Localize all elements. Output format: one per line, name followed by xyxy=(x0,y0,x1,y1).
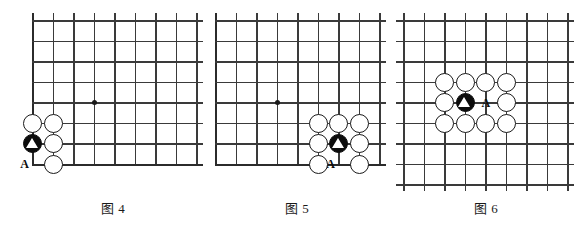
caption-prefix: 图 xyxy=(474,201,487,216)
white-stone[interactable] xyxy=(23,114,42,133)
grid-line-horizontal xyxy=(215,61,386,63)
go-diagram-sheet: A图 4A图 5A图 6 xyxy=(0,0,587,229)
grid-line-horizontal xyxy=(396,143,574,145)
white-stone[interactable] xyxy=(456,114,475,133)
grid-line-vertical xyxy=(215,13,217,164)
white-stone[interactable] xyxy=(497,73,516,92)
grid-line-vertical xyxy=(114,13,116,164)
white-stone[interactable] xyxy=(44,114,63,133)
grid-line-vertical xyxy=(155,13,157,164)
caption-number: 6 xyxy=(491,201,498,216)
grid-line-horizontal xyxy=(215,20,386,22)
grid-line-vertical xyxy=(135,13,137,164)
white-stone[interactable] xyxy=(497,114,516,133)
grid-line-vertical xyxy=(73,13,75,164)
diagram-caption: 图 6 xyxy=(436,198,536,217)
go-board[interactable]: A xyxy=(403,20,567,184)
grid-line-horizontal xyxy=(32,41,203,43)
white-stone[interactable] xyxy=(456,73,475,92)
star-point xyxy=(275,100,280,105)
grid-line-horizontal xyxy=(215,82,386,84)
grid-line-vertical xyxy=(236,13,238,164)
white-stone[interactable] xyxy=(350,155,369,174)
white-stone[interactable] xyxy=(497,93,516,112)
grid-line-vertical xyxy=(196,13,198,164)
diagram-caption: 图 5 xyxy=(247,198,347,217)
go-diagram-5: A xyxy=(201,0,393,229)
caption-prefix: 图 xyxy=(101,201,114,216)
caption-number: 4 xyxy=(118,201,125,216)
white-stone[interactable] xyxy=(309,114,328,133)
grid-line-horizontal xyxy=(32,20,203,22)
grid-line-horizontal xyxy=(32,82,203,84)
white-stone[interactable] xyxy=(350,134,369,153)
white-stone[interactable] xyxy=(329,114,348,133)
white-stone[interactable] xyxy=(309,134,328,153)
white-stone[interactable] xyxy=(476,114,495,133)
grid-line-horizontal xyxy=(396,164,574,166)
black-stone[interactable] xyxy=(456,93,475,112)
diagram-caption: 图 4 xyxy=(63,198,163,217)
grid-line-vertical xyxy=(94,13,96,164)
grid-line-horizontal xyxy=(396,184,574,186)
white-stone[interactable] xyxy=(309,155,328,174)
star-point xyxy=(92,100,97,105)
white-stone[interactable] xyxy=(435,73,454,92)
grid-line-horizontal xyxy=(32,102,203,104)
grid-line-horizontal xyxy=(396,41,574,43)
grid-line-vertical xyxy=(277,13,279,164)
caption-number: 5 xyxy=(302,201,309,216)
point-label-a: A xyxy=(9,158,29,170)
white-stone[interactable] xyxy=(350,114,369,133)
caption-prefix: 图 xyxy=(285,201,298,216)
go-diagram-6: A xyxy=(389,0,581,229)
go-board[interactable]: A xyxy=(215,20,379,164)
white-stone[interactable] xyxy=(435,93,454,112)
grid-line-horizontal xyxy=(215,102,386,104)
grid-line-horizontal xyxy=(215,41,386,43)
grid-line-horizontal xyxy=(396,61,574,63)
white-stone[interactable] xyxy=(476,73,495,92)
white-stone[interactable] xyxy=(435,114,454,133)
triangle-mark-icon xyxy=(332,138,344,148)
grid-line-vertical xyxy=(379,13,381,164)
triangle-mark-icon xyxy=(26,138,38,148)
white-stone[interactable] xyxy=(44,155,63,174)
black-stone[interactable] xyxy=(23,134,42,153)
grid-line-vertical xyxy=(256,13,258,164)
grid-line-horizontal xyxy=(32,61,203,63)
triangle-mark-icon xyxy=(458,97,470,107)
white-stone[interactable] xyxy=(44,134,63,153)
grid-line-vertical xyxy=(297,13,299,164)
grid-line-horizontal xyxy=(396,20,574,22)
go-diagram-4: A xyxy=(18,0,210,229)
grid-line-vertical xyxy=(176,13,178,164)
go-board[interactable]: A xyxy=(32,20,196,164)
black-stone[interactable] xyxy=(329,134,348,153)
